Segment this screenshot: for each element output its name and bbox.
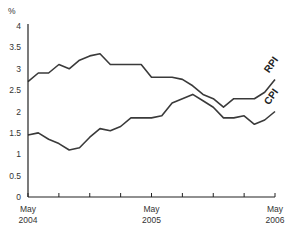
x-axis-ticks: May2004May2005May2006 xyxy=(19,193,285,225)
y-tick-label: 3.5 xyxy=(9,42,21,52)
y-axis-tick-labels: 00.511.522.533.54 xyxy=(9,21,21,202)
y-tick-label: 0 xyxy=(16,192,21,202)
y-tick-label: 4 xyxy=(16,21,21,31)
x-tick-label-year: 2004 xyxy=(19,215,38,225)
y-tick-label: 3 xyxy=(16,64,21,74)
series-labels: RPICPI xyxy=(262,54,281,106)
x-tick-label-month: May xyxy=(267,204,284,214)
series-line-cpi xyxy=(28,94,275,150)
series-lines xyxy=(28,54,275,150)
x-tick-label-month: May xyxy=(143,204,160,214)
series-line-rpi xyxy=(28,54,275,107)
series-label-rpi: RPI xyxy=(262,54,281,74)
y-axis-unit-label: % xyxy=(8,6,16,16)
y-tick-label: 2.5 xyxy=(9,85,21,95)
y-tick-label: 2 xyxy=(16,107,21,117)
line-chart: % 00.511.522.533.54 May2004May2005May200… xyxy=(0,0,292,234)
x-tick-label-year: 2005 xyxy=(142,215,161,225)
x-tick-label-month: May xyxy=(20,204,37,214)
y-tick-label: 1.5 xyxy=(9,128,21,138)
y-tick-label: 1 xyxy=(16,149,21,159)
y-tick-label: 0.5 xyxy=(9,171,21,181)
series-label-cpi: CPI xyxy=(262,87,281,107)
x-tick-label-year: 2006 xyxy=(266,215,285,225)
